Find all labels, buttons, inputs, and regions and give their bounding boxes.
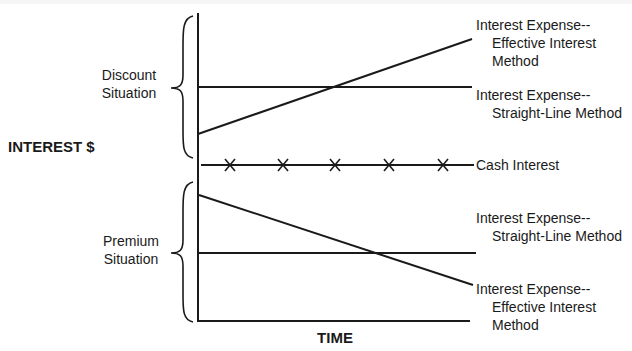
cash-interest-label: Cash Interest bbox=[476, 157, 559, 173]
discount-situation-label: Situation bbox=[102, 85, 156, 101]
y-axis-label: INTEREST $ bbox=[8, 138, 95, 155]
premium-effective-label: Interest Expense-- bbox=[476, 281, 591, 297]
premium-straight-label: Straight-Line Method bbox=[492, 228, 622, 244]
discount-straight-label: Straight-Line Method bbox=[492, 105, 622, 121]
interest-method-diagram: Discount Situation INTEREST $ Premium Si… bbox=[0, 0, 632, 351]
discount-effective-label: Interest Expense-- bbox=[476, 17, 591, 33]
premium-effective-label: Effective Interest bbox=[492, 299, 596, 315]
premium-straight-label: Interest Expense-- bbox=[476, 210, 591, 226]
premium-situation-label: Situation bbox=[104, 251, 158, 267]
discount-effective-label: Effective Interest bbox=[492, 35, 596, 51]
premium-effective-line bbox=[199, 195, 473, 285]
premium-brace-icon bbox=[171, 182, 193, 322]
premium-effective-label: Method bbox=[492, 317, 539, 333]
discount-straight-label: Interest Expense-- bbox=[476, 87, 591, 103]
discount-brace-icon bbox=[171, 16, 193, 158]
premium-situation-label: Premium bbox=[103, 233, 159, 249]
x-axis-label: TIME bbox=[317, 329, 353, 346]
discount-effective-label: Method bbox=[492, 53, 539, 69]
discount-situation-label: Discount bbox=[102, 67, 157, 83]
